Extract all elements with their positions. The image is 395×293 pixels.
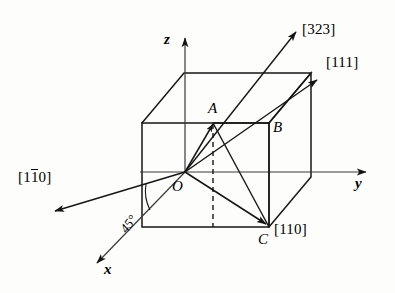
bracket-close: ] xyxy=(46,169,51,185)
vector-OA xyxy=(185,124,213,172)
cube-wireframe xyxy=(142,73,311,227)
direction-label-111: [111] xyxy=(326,55,358,70)
point-label-B: B xyxy=(273,120,282,135)
crystal-direction-figure: z y x O A B C [323] [111] [110] [110] 45… xyxy=(0,0,395,293)
cube-right-face xyxy=(269,73,311,227)
point-label-C: C xyxy=(258,232,268,247)
z-axis-label: z xyxy=(164,32,170,47)
direction-label-1bar10: [110] xyxy=(18,170,52,185)
construction-lines xyxy=(145,123,269,227)
x-axis-label: x xyxy=(104,262,112,277)
line-A-C xyxy=(213,123,269,227)
index-digit-1: 1 xyxy=(23,169,31,185)
point-label-O: O xyxy=(172,179,183,194)
y-axis-label: y xyxy=(355,176,362,191)
coordinate-axes xyxy=(97,38,366,263)
direction-label-323: [323] xyxy=(302,22,336,37)
direction-label-110: [110] xyxy=(274,222,307,237)
vector-323 xyxy=(185,32,296,172)
index-digit-barred: 1 xyxy=(31,170,39,185)
cube-top-face xyxy=(142,73,311,123)
diagram-canvas xyxy=(0,0,395,293)
vector-111 xyxy=(185,80,317,172)
cube-front-face xyxy=(142,123,269,227)
angle-arc-45 xyxy=(145,184,150,210)
point-label-A: A xyxy=(208,101,217,116)
